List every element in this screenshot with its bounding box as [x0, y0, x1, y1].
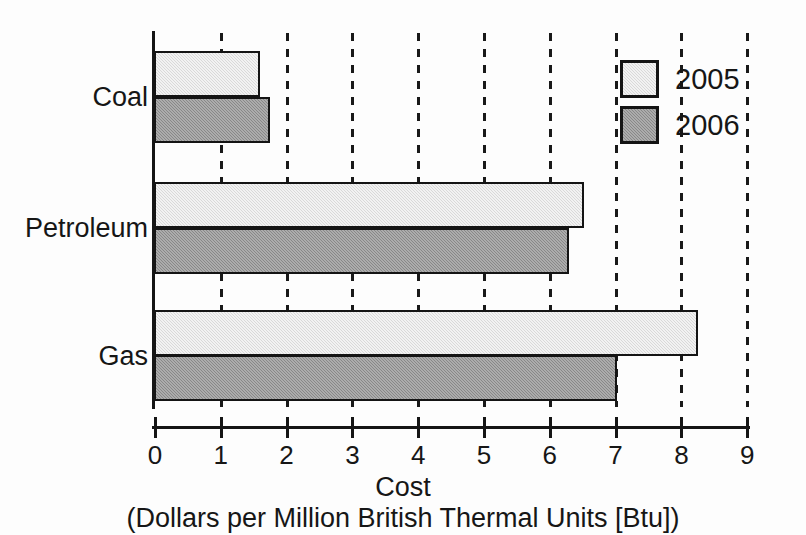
x-axis-line	[152, 426, 750, 429]
legend-label-2006: 2006	[675, 109, 740, 141]
x-tick-label-7: 7	[596, 440, 636, 470]
bar-gas-2006	[154, 355, 617, 401]
x-tick-8	[680, 417, 683, 438]
y-axis-category-labels: CoalPetroleumGas	[0, 0, 148, 440]
category-label-coal: Coal	[3, 82, 148, 112]
x-tick-label-1: 1	[201, 440, 241, 470]
x-tick-3	[351, 417, 354, 438]
category-label-petroleum: Petroleum	[3, 213, 148, 243]
legend-swatch-2005	[620, 60, 659, 98]
y-axis-line	[152, 31, 155, 409]
x-tick-label-3: 3	[332, 440, 372, 470]
legend-label-2005: 2005	[675, 63, 740, 95]
bar-chart: 0123456789 CoalPetroleumGas 2005 2006 Co…	[0, 0, 806, 535]
x-tick-4	[417, 417, 420, 438]
x-tick-label-5: 5	[464, 440, 504, 470]
x-tick-0	[154, 417, 157, 438]
x-tick-label-9: 9	[727, 440, 767, 470]
legend-swatch-2006	[620, 106, 659, 144]
bar-petroleum-2005	[154, 182, 584, 228]
legend-item-2005: 2005	[620, 56, 795, 102]
x-tick-9	[746, 417, 749, 438]
legend-item-2006: 2006	[620, 102, 795, 148]
x-tick-label-0: 0	[135, 440, 175, 470]
x-tick-7	[615, 417, 618, 438]
x-axis-subtitle: (Dollars per Million British Thermal Uni…	[0, 503, 806, 533]
x-tick-label-8: 8	[661, 440, 701, 470]
x-tick-5	[483, 417, 486, 438]
bar-gas-2005	[154, 310, 698, 356]
x-tick-2	[286, 417, 289, 438]
bar-coal-2005	[154, 51, 260, 97]
x-tick-6	[549, 417, 552, 438]
x-axis-title: Cost	[0, 472, 806, 502]
x-tick-label-4: 4	[398, 440, 438, 470]
bar-petroleum-2006	[154, 228, 569, 274]
x-tick-label-2: 2	[267, 440, 307, 470]
bar-coal-2006	[154, 97, 270, 143]
legend: 2005 2006	[620, 56, 795, 148]
x-tick-label-6: 6	[530, 440, 570, 470]
category-label-gas: Gas	[3, 341, 148, 371]
x-tick-1	[220, 417, 223, 438]
